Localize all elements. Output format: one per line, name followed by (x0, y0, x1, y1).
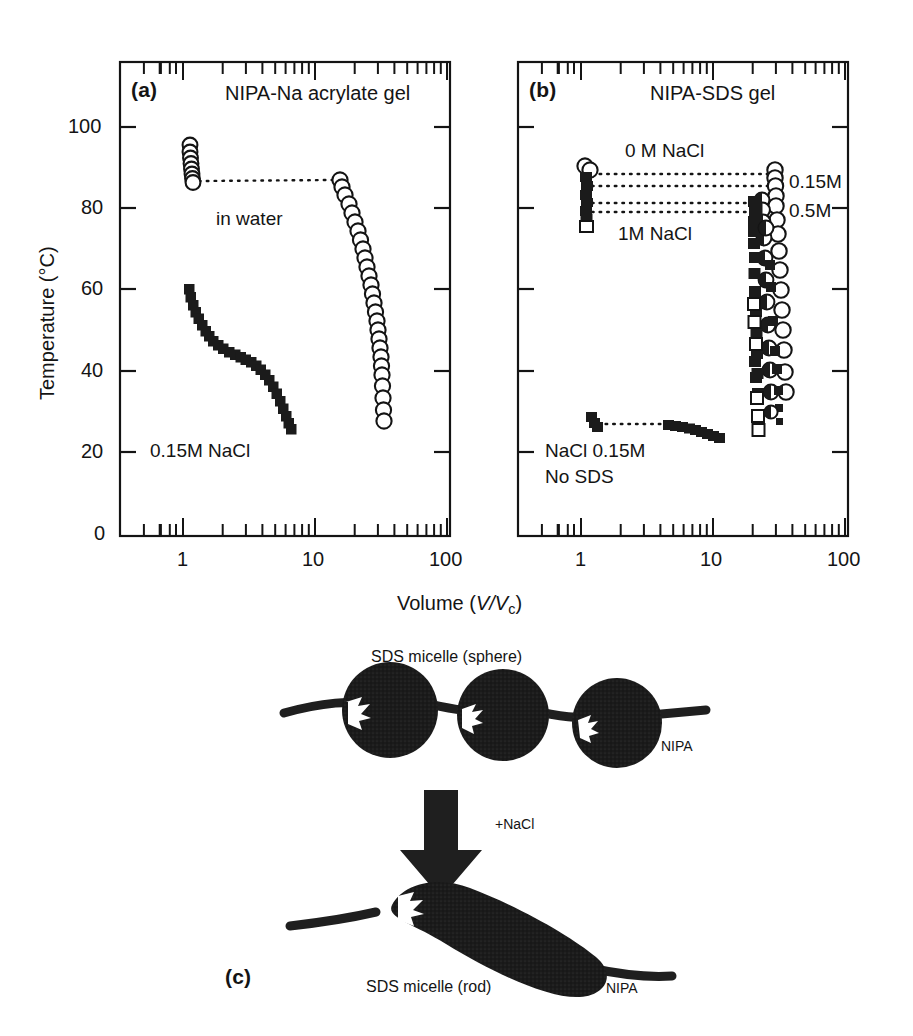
panel-a-frame (120, 62, 450, 536)
x-axis-title-var2: V (495, 592, 508, 614)
panel-a-open-circle-series-collapsed (183, 138, 201, 190)
panel-b-annotation-0m: 0 M NaCl (625, 140, 704, 162)
panel-a-x-tick-label-10: 10 (302, 548, 324, 571)
panel-c-label-sphere: SDS micelle (sphere) (371, 648, 522, 666)
panel-a-annotation-in-water: in water (216, 208, 283, 230)
panel-a-open-circle-series-swollen (332, 172, 391, 428)
panel-b-annotation-05m: 0.5M (789, 200, 831, 222)
panel-a-x-tick-label-1: 1 (177, 548, 188, 571)
panel-a-filled-square-series (184, 284, 297, 435)
y-axis-title: Temperature (°C) (36, 246, 59, 400)
panel-c-label-arrow: +NaCl (495, 816, 534, 832)
panel-b-nosds-filled-square-series (586, 412, 725, 443)
panel-c-letter: (c) (225, 965, 251, 989)
x-axis-title: Volume (V/Vc) (397, 592, 522, 617)
panel-b-tie-lines (592, 174, 774, 424)
x-axis-title-var: V (476, 592, 489, 614)
panel-c-label-nipa-top: NIPA (661, 738, 693, 754)
figure-root: Temperature (°C) 100 80 60 40 20 0 (a) N… (0, 0, 913, 1036)
y-tick-label-60: 60 (81, 277, 103, 300)
panel-a-title: NIPA-Na acrylate gel (225, 82, 410, 105)
panel-b-x-ticks-top (542, 62, 845, 80)
panel-b-x-tick-label-10: 10 (700, 548, 722, 571)
panel-b-annotation-nosds-line2: No SDS (545, 466, 614, 488)
panel-c-sds-micelle-spheres (342, 662, 662, 768)
y-tick-label-100: 100 (68, 115, 101, 138)
panel-b-left-collapsed-cluster (577, 158, 597, 232)
panel-b-x-tick-label-100: 100 (827, 548, 860, 571)
panel-c-label-nipa-bottom: NIPA (606, 980, 638, 996)
panel-a-letter: (a) (131, 78, 157, 102)
panel-b-title: NIPA-SDS gel (650, 82, 775, 105)
panel-b-frame (518, 62, 848, 536)
panel-b-letter: (b) (529, 78, 556, 102)
y-tick-label-40: 40 (81, 359, 103, 382)
x-axis-title-suffix: ) (515, 592, 522, 614)
panel-a-tie-line (199, 180, 333, 181)
x-axis-title-prefix: Volume ( (397, 592, 476, 614)
panel-b-x-ticks-bottom (542, 518, 845, 536)
panel-b-annotation-1m: 1M NaCl (618, 223, 692, 245)
panel-a-annotation-salt: 0.15M NaCl (150, 440, 250, 462)
y-tick-label-80: 80 (81, 196, 103, 219)
y-tick-label-20: 20 (81, 440, 103, 463)
panel-c-down-arrow (400, 790, 482, 898)
panel-a-x-ticks-bottom (144, 518, 447, 536)
panel-b-annotation-nosds-line1: NaCl 0.15M (545, 440, 645, 462)
panel-a-x-ticks-top (144, 62, 447, 80)
figure-canvas (0, 0, 913, 1036)
y-tick-label-0: 0 (94, 522, 105, 545)
panel-b-x-tick-label-1: 1 (575, 548, 586, 571)
panel-a-x-tick-label-100: 100 (429, 548, 462, 571)
panel-c-label-rod: SDS micelle (rod) (366, 978, 491, 996)
panel-b-annotation-015m: 0.15M (789, 171, 842, 193)
